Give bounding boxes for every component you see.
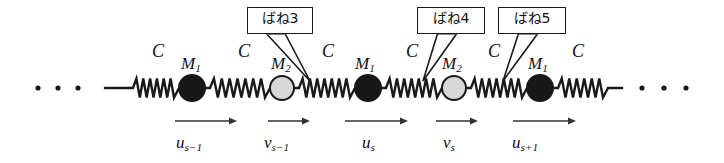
displacement-label-2: vs−1 (264, 134, 289, 153)
spring-4 (381, 79, 442, 98)
spring-1 (128, 79, 179, 98)
ellipsis-dot-left-1 (35, 85, 40, 90)
ellipsis-dot-left-3 (75, 85, 80, 90)
arrow-head-u-s (400, 117, 408, 124)
mass-m1-1 (179, 75, 205, 101)
spring-constant-label-3: C (322, 42, 334, 60)
mass-label-symbol: M (181, 54, 195, 73)
spring-5 (466, 79, 527, 98)
lattice-chain-figure: CCCCCCM1M2M1M2M1us−1vs−1usvsus+1 ばね3ばね4ば… (0, 0, 724, 163)
arrow-head-v-s (470, 117, 478, 124)
spring-constant-label-5: C (488, 42, 500, 60)
mass-label-4: M2 (442, 55, 462, 74)
spring-constant-label-1: C (152, 42, 164, 60)
displacement-label-3: us (362, 134, 375, 153)
displacement-label-subscript: s−1 (272, 141, 290, 153)
mass-label-5: M1 (528, 55, 548, 74)
ellipsis-dot-right-3 (683, 85, 688, 90)
mass-m2-2 (270, 76, 294, 100)
spring-2 (205, 79, 270, 98)
displacement-label-symbol: u (512, 133, 521, 152)
displacement-label-symbol: v (443, 133, 451, 152)
arrow-head-u-s-plus-1 (568, 117, 576, 124)
mass-label-subscript: 1 (195, 62, 201, 74)
callout-box-spring4: ばね4 (417, 7, 485, 34)
spring-6 (553, 79, 608, 98)
spring-constant-label-6: C (572, 42, 584, 60)
displacement-label-subscript: s−1 (185, 141, 203, 153)
ellipsis-dot-left-2 (55, 85, 60, 90)
mass-m1-5 (527, 75, 553, 101)
callout-box-spring5: ばね5 (498, 7, 566, 34)
mass-label-1: M1 (181, 55, 201, 74)
mass-m2-4 (442, 76, 466, 100)
mass-m1-3 (355, 75, 381, 101)
mass-label-subscript: 2 (456, 62, 462, 74)
displacement-label-symbol: u (176, 133, 185, 152)
ellipsis-dot-right-2 (661, 85, 666, 90)
spring-3 (294, 79, 355, 98)
mass-label-subscript: 1 (369, 62, 375, 74)
displacement-label-symbol: u (362, 133, 371, 152)
ellipsis-dot-right-1 (639, 85, 644, 90)
displacement-label-4: vs (443, 134, 455, 153)
displacement-label-subscript: s (451, 141, 455, 153)
arrow-head-v-s-minus-1 (302, 117, 310, 124)
displacement-label-subscript: s+1 (521, 141, 539, 153)
spring-constant-label-4: C (406, 42, 418, 60)
mass-label-3: M1 (355, 55, 375, 74)
mass-label-subscript: 1 (542, 62, 548, 74)
displacement-label-symbol: v (264, 133, 272, 152)
mass-label-2: M2 (271, 55, 291, 74)
displacement-label-subscript: s (371, 141, 375, 153)
spring-constant-label-2: C (238, 42, 250, 60)
mass-label-symbol: M (271, 54, 285, 73)
mass-label-subscript: 2 (285, 62, 291, 74)
callout-box-spring3: ばね3 (247, 7, 313, 34)
arrow-head-u-s-minus-1 (229, 117, 237, 124)
mass-label-symbol: M (528, 54, 542, 73)
mass-label-symbol: M (355, 54, 369, 73)
displacement-label-1: us−1 (176, 134, 202, 153)
displacement-label-5: us+1 (512, 134, 538, 153)
mass-label-symbol: M (442, 54, 456, 73)
displacement-arrow-group (175, 117, 576, 124)
